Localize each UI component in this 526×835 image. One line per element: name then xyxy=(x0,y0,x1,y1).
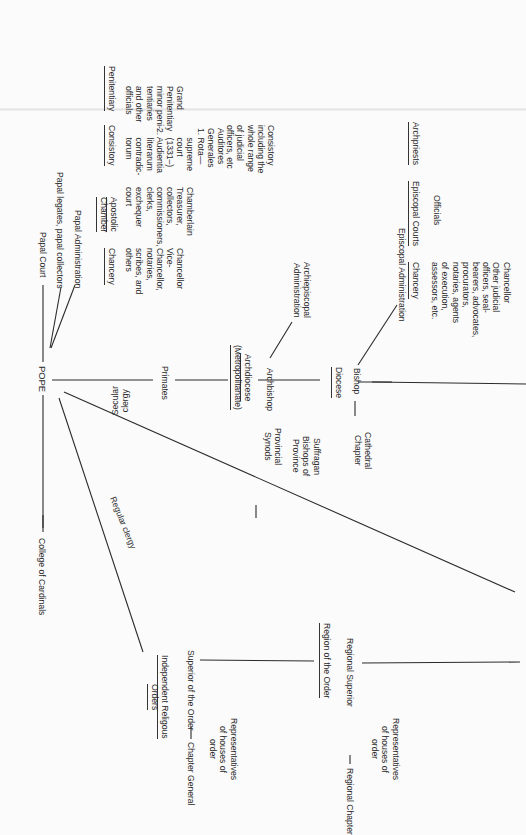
episcopal-administration-label: Episcopal Administration xyxy=(397,228,407,322)
cathedral-chapter-label: Cathedral Chapter xyxy=(353,432,373,469)
officials-label: Officials xyxy=(432,195,442,225)
representatives-label-1: Representatives of houses of order xyxy=(208,718,239,780)
college-of-cardinals-label: College of Cardinals xyxy=(37,538,47,615)
apostolic-chamber-body: Chamberlain Treasurer, collectors, commi… xyxy=(124,187,195,247)
archbishop-label: Archbishop xyxy=(265,368,275,411)
archiepiscopal-admin-label: Archiepiscopal Administration xyxy=(292,262,312,318)
consistory-heading: Consistory xyxy=(107,125,117,166)
papal-court-label: Papal Court xyxy=(38,232,48,277)
diocese-label: Diocese xyxy=(334,367,344,398)
papal-legates-label: Papal legates, papal collectors xyxy=(55,172,65,289)
regional-superior-label: Regional Superior xyxy=(345,638,355,707)
chancery-heading: Chancery xyxy=(107,248,117,285)
consistory-body: Auditores Generales 1. Rota— supreme cou… xyxy=(124,128,226,175)
episcopal-chancery-body: Chancellor Other judicial officers, seal… xyxy=(430,262,512,337)
chapter-general-label: Chapter General xyxy=(186,742,196,806)
chancery-body: Chancellor Vice- Chancellor, notaries, s… xyxy=(124,248,185,294)
archdiocese-label: Archdiocese (Metropolitanate) xyxy=(233,345,253,410)
pope-node: POPE xyxy=(37,366,47,392)
archpriests-heading: Archpriests xyxy=(411,122,421,165)
regional-chapter-label: Regional Chapter xyxy=(345,768,355,835)
primates-label: Primates xyxy=(160,366,170,400)
episcopal-chancery-heading: Chancery xyxy=(411,262,421,299)
bishop-label: Bishop xyxy=(352,368,362,394)
apostolic-chamber-heading: Apostolic Chamber xyxy=(99,197,119,232)
representatives-label-2: Representatives of houses of order xyxy=(370,718,401,780)
suffragan-bishops-label: Suffragan Bishops of Province xyxy=(291,436,322,476)
consistory-note: Consistory including the whole range of … xyxy=(225,125,276,173)
papal-administration-label: Papal Administration xyxy=(73,210,83,288)
episcopal-courts-heading: Episcopal Courts xyxy=(411,181,421,246)
penitentiary-body: Grand Penitentiary minor peni- tentiarie… xyxy=(124,86,185,131)
provincial-synods-label: Provincial Synods xyxy=(263,428,283,465)
penitentiary-heading: Penitentiary xyxy=(107,66,117,111)
independent-orders-label: Independent Religous Orders xyxy=(150,655,170,739)
superior-of-order-label: Superior of the Order xyxy=(186,650,196,731)
region-of-order-label: Region of the Order xyxy=(322,623,332,698)
secular-clergy-label: Secular clergy xyxy=(110,386,130,415)
